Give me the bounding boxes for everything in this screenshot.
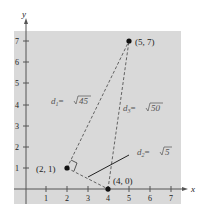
x-tick-label: 7 <box>169 194 173 203</box>
x-tick-label: 2 <box>65 194 69 203</box>
x-tick-label: 1 <box>44 194 48 203</box>
y-tick-label: 2 <box>15 143 19 152</box>
point-label-5-7: (5, 7) <box>135 37 155 47</box>
svg-text:5: 5 <box>165 147 170 157</box>
x-tick-label: 6 <box>148 194 152 203</box>
x-axis-arrow-icon <box>182 187 188 191</box>
y-tick-label: 3 <box>15 122 19 131</box>
point-label-4-0: (4, 0) <box>113 176 133 186</box>
point-label-2-1: (2, 1) <box>36 164 56 174</box>
x-tick-label: 3 <box>86 194 90 203</box>
x-tick-label: 5 <box>127 194 131 203</box>
svg-text:50: 50 <box>151 103 161 113</box>
y-tick-label: 5 <box>15 79 19 88</box>
y-tick-label: 6 <box>15 58 19 67</box>
y-tick-label: 7 <box>15 37 19 46</box>
point-2-1 <box>64 165 69 170</box>
point-4-0 <box>105 186 110 191</box>
svg-text:45: 45 <box>79 96 89 106</box>
y-tick-label: 4 <box>15 101 19 110</box>
point-5-7 <box>126 38 131 43</box>
x-tick-label: 4 <box>106 194 110 203</box>
distance-diagram: y x 1 2 3 4 5 6 7 1 2 3 4 5 6 7 <box>0 0 203 219</box>
y-tick-label: 1 <box>15 164 19 173</box>
y-axis-label: y <box>21 9 26 19</box>
x-axis-label: x <box>190 184 195 194</box>
plot-background <box>14 31 181 204</box>
